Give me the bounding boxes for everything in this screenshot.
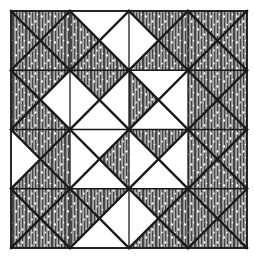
quilt-block-figure	[0, 0, 254, 259]
quilt-diagram-canvas	[0, 0, 254, 259]
